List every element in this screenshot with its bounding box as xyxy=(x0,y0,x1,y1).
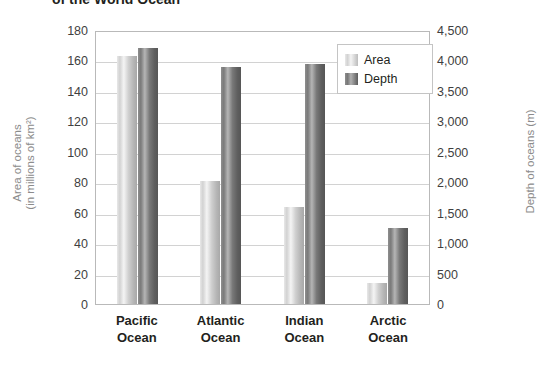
bar-depth xyxy=(388,228,408,304)
bar-area xyxy=(200,181,220,304)
bar-depth xyxy=(305,64,325,305)
bar-area xyxy=(284,207,304,304)
y-axis-right-tick-label: 4,500 xyxy=(437,25,497,37)
chart-legend: AreaDepth xyxy=(337,44,433,94)
x-axis-category-label: IndianOcean xyxy=(263,312,347,364)
y-axis-left-tick-label: 60 xyxy=(28,208,88,220)
category-label-line1: Atlantic xyxy=(179,312,263,329)
legend-swatch-icon xyxy=(345,73,358,85)
y-axis-left-tick-label: 180 xyxy=(28,25,88,37)
y-axis-right-tick-label: 4,000 xyxy=(437,55,497,67)
x-axis-category-label: AtlanticOcean xyxy=(179,312,263,364)
category-label-line1: Indian xyxy=(263,312,347,329)
legend-item-label: Depth xyxy=(364,72,397,86)
x-axis-category-label: PacificOcean xyxy=(95,312,179,364)
bar-group xyxy=(263,32,346,304)
bar-group xyxy=(179,32,262,304)
legend-item-area[interactable]: Area xyxy=(345,50,432,69)
x-axis-category-label: ArcticOcean xyxy=(346,312,430,364)
y-axis-left-title-line1: Area of oceans xyxy=(11,124,23,201)
y-axis-left-tick-label: 160 xyxy=(28,55,88,67)
y-axis-left-tick-label: 20 xyxy=(28,269,88,281)
bar-depth xyxy=(221,67,241,304)
category-label-line2: Ocean xyxy=(95,329,179,346)
y-axis-right-title: Depth of oceans (m) xyxy=(524,87,537,237)
y-axis-right-tick-label: 1,500 xyxy=(437,208,497,220)
category-label-line2: Ocean xyxy=(263,329,347,346)
y-axis-left-tick-label: 100 xyxy=(28,147,88,159)
y-axis-left-tick-label: 120 xyxy=(28,116,88,128)
category-label-line2: Ocean xyxy=(179,329,263,346)
bar-area xyxy=(117,56,137,304)
y-axis-left-tick-label: 40 xyxy=(28,238,88,250)
category-label-line2: Ocean xyxy=(346,329,430,346)
y-axis-right-ticks: 4,5004,0003,5003,0002,5002,0001,5001,000… xyxy=(437,0,497,369)
y-axis-right-tick-label: 0 xyxy=(437,299,497,311)
legend-item-label: Area xyxy=(364,53,390,67)
y-axis-right-tick-label: 2,500 xyxy=(437,147,497,159)
bar-area xyxy=(367,283,387,304)
y-axis-right-tick-label: 500 xyxy=(437,269,497,281)
bar-group xyxy=(96,32,179,304)
y-axis-right-tick-label: 3,000 xyxy=(437,116,497,128)
y-axis-left-ticks: 180160140120100806040200 xyxy=(28,0,88,369)
bar-depth xyxy=(138,48,158,304)
legend-swatch-icon xyxy=(345,54,358,66)
x-axis-category-labels: PacificOceanAtlanticOceanIndianOceanArct… xyxy=(95,312,430,364)
y-axis-right-tick-label: 3,500 xyxy=(437,86,497,98)
bar-chart: of the World Ocean Area of oceans (in mi… xyxy=(0,0,538,369)
y-axis-left-tick-label: 80 xyxy=(28,177,88,189)
chart-title: of the World Ocean xyxy=(52,0,352,7)
y-axis-right-tick-label: 1,000 xyxy=(437,238,497,250)
y-axis-left-tick-label: 140 xyxy=(28,86,88,98)
y-axis-right-tick-label: 2,000 xyxy=(437,177,497,189)
category-label-line1: Pacific xyxy=(95,312,179,329)
legend-item-depth[interactable]: Depth xyxy=(345,69,432,88)
y-axis-left-tick-label: 0 xyxy=(28,299,88,311)
category-label-line1: Arctic xyxy=(346,312,430,329)
